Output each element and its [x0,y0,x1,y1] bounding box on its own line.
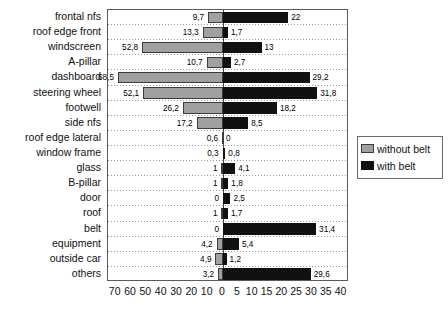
x-tick-label: 35 [320,284,332,298]
x-tick-label: 15 [261,284,273,298]
chart-row: 3,229,6 [108,267,347,282]
legend-swatch-without-belt [361,144,374,153]
value-label-with-belt: 8,5 [251,116,262,131]
category-label: belt [84,221,101,236]
x-tick-label: 30 [170,284,182,298]
value-label-without-belt: 0 [214,222,219,237]
chart-row: 17,28,5 [108,116,347,131]
x-tick-label: 10 [246,284,258,298]
value-label-without-belt: 0 [214,191,219,206]
value-label-without-belt: 4,2 [201,237,212,252]
category-label: dashboard [51,69,101,84]
bar-without-belt [118,72,223,83]
value-label-with-belt: 1,8 [231,176,242,191]
chart-row: 02,5 [108,191,347,206]
x-tick-label: 20 [185,284,197,298]
chart-row: 52,813 [108,40,347,55]
category-label: outside car [50,251,101,266]
value-label-without-belt: 68,5 [98,70,114,85]
x-tick-label: 5 [234,284,240,298]
value-label-without-belt: 10,7 [187,55,203,70]
bar-with-belt [223,268,311,279]
bar-with-belt [223,42,262,53]
value-label-with-belt: 2,5 [233,191,244,206]
value-label-with-belt: 1,7 [231,206,242,221]
x-tick-label: 20 [275,284,287,298]
chart-row: 26,218,2 [108,101,347,116]
x-tick-label: 30 [305,284,317,298]
chart-row: 10,72,7 [108,55,347,70]
value-label-without-belt: 1 [213,206,218,221]
x-axis-tick-labels: 706050403020100510152025303540 [107,284,348,304]
x-tick-label-zero: 0 [219,284,225,298]
category-label: others [72,266,101,281]
category-label: steering wheel [33,85,101,100]
bar-with-belt [223,117,248,128]
chart-row: 14,1 [108,161,347,176]
bar-without-belt [143,87,223,98]
value-label-without-belt: 52,1 [123,86,139,101]
chart-row: 11,8 [108,176,347,191]
legend-label: without belt [377,143,430,155]
chart-row: 13,31,7 [108,25,347,40]
x-tick-label: 40 [335,284,347,298]
bar-with-belt [223,223,316,234]
category-label: roof edge front [33,24,101,39]
chart-row: 68,529,2 [108,70,347,85]
chart-row: 0,60 [108,131,347,146]
bar-without-belt [208,12,223,23]
category-label: windscreen [48,39,101,54]
value-label-with-belt: 2,7 [234,55,245,70]
bar-without-belt [142,42,223,53]
category-label: frontal nfs [55,9,101,24]
bar-without-belt [207,57,223,68]
bar-with-belt [223,208,228,219]
value-label-without-belt: 9,7 [193,10,204,25]
value-label-with-belt: 1,2 [230,252,241,267]
chart-row: 11,7 [108,206,347,221]
chart-row: 4,25,4 [108,237,347,252]
bar-with-belt [223,87,317,98]
value-label-without-belt: 26,2 [163,101,179,116]
bar-with-belt [223,253,227,264]
x-tick-label: 70 [109,284,121,298]
category-label: side nfs [65,115,101,130]
value-label-without-belt: 17,2 [177,116,193,131]
bar-without-belt [222,132,224,143]
category-label: footwell [65,100,101,115]
category-label: door [80,190,101,205]
value-label-with-belt: 29,2 [313,70,329,85]
x-tick-label: 60 [124,284,136,298]
value-label-without-belt: 0,3 [207,146,218,161]
bar-without-belt [215,253,223,264]
chart-row: 9,722 [108,10,347,25]
category-label: roof edge lateral [25,130,101,145]
bar-without-belt [197,117,223,128]
value-label-with-belt: 0 [226,131,231,146]
bar-without-belt [183,102,223,113]
legend-swatch-with-belt [361,161,374,170]
value-label-with-belt: 5,4 [242,237,253,252]
value-label-without-belt: 3,2 [203,267,214,282]
value-label-without-belt: 0,6 [207,131,218,146]
bar-with-belt [223,27,228,38]
value-label-with-belt: 18,2 [280,101,296,116]
value-label-without-belt: 13,3 [183,25,199,40]
category-label: window frame [36,145,101,160]
value-label-with-belt: 0,8 [228,146,239,161]
chart-row: 52,131,8 [108,86,347,101]
value-label-with-belt: 4,1 [238,161,249,176]
bar-without-belt [203,27,223,38]
value-label-with-belt: 22 [291,10,300,25]
bar-with-belt [223,57,231,68]
chart-row: 031,4 [108,222,347,237]
bar-with-belt [223,238,239,249]
bar-with-belt [223,102,277,113]
category-label: equipment [52,236,101,251]
x-tick-label: 10 [201,284,213,298]
bidirectional-bar-chart: frontal nfsroof edge frontwindscreenA-pi… [0,0,448,311]
bar-with-belt [223,178,228,189]
plot-area: 9,72213,31,752,81310,72,768,529,252,131,… [107,9,348,281]
value-label-with-belt: 31,8 [320,86,336,101]
x-tick-label: 50 [139,284,151,298]
